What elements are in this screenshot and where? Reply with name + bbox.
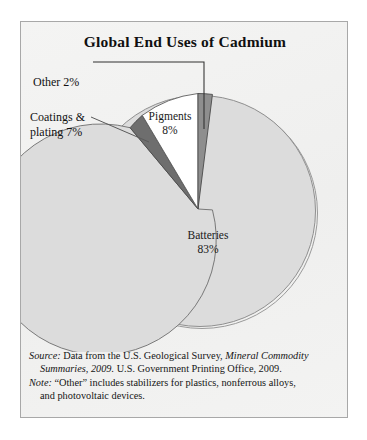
footnote-source-text-1: Data from the U.S. Geological Survey, <box>61 350 226 361</box>
pie-label-other: Other 2% <box>33 75 79 90</box>
pie-label-coatings-line2: plating 7% <box>30 125 85 140</box>
pie-label-pigments: Pigments 8% <box>139 110 201 137</box>
pie-label-coatings: Coatings & plating 7% <box>30 110 85 139</box>
footnote-source-line2: Summaries, 2009. U.S. Government Printin… <box>29 362 345 375</box>
figure-frame: Global End Uses of Cadmium Other 2% Coat… <box>20 21 348 418</box>
pie-label-coatings-line1: Coatings & <box>30 110 85 125</box>
footnote-source-label: Source: <box>29 350 61 361</box>
pie-label-pigments-value: 8% <box>139 124 201 138</box>
pie-label-batteries: Batteries 83% <box>173 229 243 256</box>
footnote-source-italic-2: Summaries, 2009. <box>40 363 114 374</box>
footnote-note-text-2: and photovoltaic devices. <box>40 390 145 401</box>
footnote-note-text-1: “Other” includes stabilizers for plastic… <box>52 377 296 388</box>
footnote-note-line1: Note: “Other” includes stabilizers for p… <box>29 376 345 389</box>
pie-chart-svg <box>21 22 348 352</box>
footnote-note-label: Note: <box>29 377 52 388</box>
footnote-source-italic-1: Mineral Commodity <box>225 350 308 361</box>
footnote-source-text-2: U.S. Government Printing Office, 2009. <box>114 363 282 374</box>
pie-label-batteries-value: 83% <box>173 243 243 257</box>
footnote-note-line2: and photovoltaic devices. <box>29 389 345 402</box>
pie-label-batteries-name: Batteries <box>173 229 243 243</box>
figure-footnotes: Source: Data from the U.S. Geological Su… <box>29 349 345 403</box>
pie-label-pigments-name: Pigments <box>139 110 201 124</box>
footnote-source-line1: Source: Data from the U.S. Geological Su… <box>29 349 345 362</box>
pie-chart: Other 2% Coatings & plating 7% Pigments … <box>21 22 348 352</box>
